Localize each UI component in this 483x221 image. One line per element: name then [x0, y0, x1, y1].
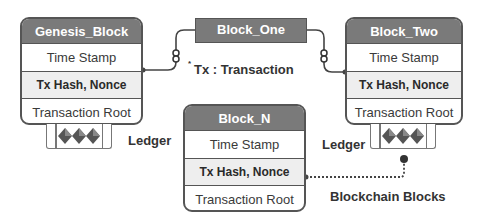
time-stamp-row: Time Stamp [347, 44, 461, 71]
diagram-caption: Blockchain Blocks [330, 189, 446, 204]
tx-hash-row: Tx Hash, Nonce [22, 71, 141, 98]
legend-text: Tx : Transaction [194, 62, 294, 77]
tx-hash-row: Tx Hash, Nonce [347, 71, 461, 98]
block-title: Block_Two [347, 19, 461, 44]
ledger-diamonds-icon [370, 124, 436, 149]
legend-marker: * [188, 59, 191, 68]
transaction-root-row: Transaction Root [185, 185, 304, 212]
block-title: Block_N [185, 106, 304, 131]
ledger-diamonds-icon [46, 124, 112, 149]
ledger-label: Ledger [128, 133, 171, 148]
chain-link-icon [321, 50, 327, 62]
block-two: Block_Two Time Stamp Tx Hash, Nonce Tran… [345, 17, 463, 125]
block-one: Block_One [195, 18, 307, 43]
chain-link-icon [173, 50, 179, 62]
block-n: Block_N Time Stamp Tx Hash, Nonce Transa… [183, 104, 306, 212]
transaction-root-row: Transaction Root [22, 98, 141, 125]
time-stamp-row: Time Stamp [22, 44, 141, 71]
transaction-root-row: Transaction Root [347, 98, 461, 125]
time-stamp-row: Time Stamp [185, 131, 304, 158]
ledger-label: Ledger [322, 137, 365, 152]
tx-hash-row: Tx Hash, Nonce [185, 158, 304, 185]
block-title: Genesis_Block [22, 19, 141, 44]
genesis-block: Genesis_Block Time Stamp Tx Hash, Nonce … [20, 17, 143, 125]
